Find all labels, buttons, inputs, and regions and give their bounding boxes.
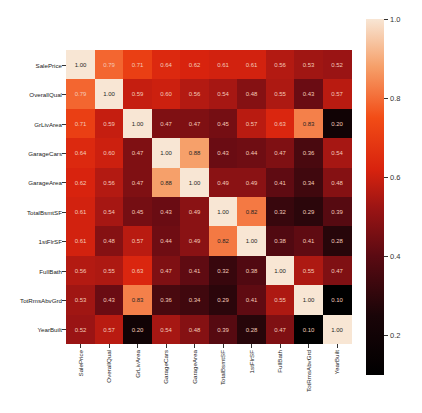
heatmap-cell: 0.45 (123, 197, 152, 227)
heatmap-cell: 0.36 (152, 285, 181, 315)
heatmap-cell: 0.48 (180, 315, 209, 345)
heatmap-cell: 0.62 (66, 168, 95, 198)
x-tick-label: GrLivArea (134, 350, 141, 378)
heatmap-cell: 0.47 (152, 256, 181, 286)
x-tick-label: YearBuilt (333, 350, 340, 375)
heatmap-cell: 0.88 (152, 168, 181, 198)
y-tick-label: 1stFlrSF (39, 238, 62, 245)
heatmap-cell: 0.47 (266, 315, 295, 345)
y-tick-label: TotalBsmtSF (27, 208, 62, 215)
colorbar-tick-label: 0.6 (390, 173, 400, 182)
x-tick-label: GarageArea (191, 350, 198, 384)
y-tick-mark (62, 153, 66, 154)
heatmap-cell: 0.55 (95, 256, 124, 286)
x-tick-mark (223, 344, 224, 348)
heatmap-cell: 0.63 (266, 109, 295, 139)
heatmap-cell: 1.00 (152, 138, 181, 168)
colorbar-tick-mark (384, 177, 388, 178)
heatmap-cell: 0.63 (123, 256, 152, 286)
heatmap-cell: 1.00 (266, 256, 295, 286)
colorbar-tick-label: 0.2 (390, 331, 400, 340)
y-tick-label: GarageArea (28, 179, 62, 186)
heatmap-cell: 1.00 (180, 168, 209, 198)
heatmap-cell: 0.48 (323, 168, 352, 198)
colorbar-tick-label: 0.8 (390, 94, 400, 103)
heatmap-cell: 0.53 (294, 50, 323, 80)
heatmap-cell: 0.48 (237, 79, 266, 109)
heatmap-cell: 0.28 (237, 315, 266, 345)
heatmap-cell: 0.54 (323, 138, 352, 168)
heatmap-cell: 0.59 (95, 109, 124, 139)
heatmap-cell: 0.44 (237, 138, 266, 168)
heatmap-cell: 0.45 (209, 109, 238, 139)
y-tick-mark (62, 271, 66, 272)
heatmap-cell: 0.47 (152, 109, 181, 139)
heatmap-cell: 1.00 (323, 315, 352, 345)
heatmap-cell: 0.10 (294, 315, 323, 345)
heatmap-cell: 0.52 (66, 315, 95, 345)
y-tick-mark (62, 241, 66, 242)
heatmap-cell: 0.29 (209, 285, 238, 315)
y-tick-mark (62, 65, 66, 66)
heatmap-cell: 0.20 (323, 109, 352, 139)
heatmap-cell: 0.41 (266, 168, 295, 198)
y-tick-label: GrLivArea (34, 120, 62, 127)
heatmap-cell: 0.39 (323, 197, 352, 227)
y-tick-label: SalePrice (36, 61, 62, 68)
heatmap-cell: 0.57 (95, 315, 124, 345)
heatmap-cell: 0.20 (123, 315, 152, 345)
heatmap-cell: 0.48 (95, 226, 124, 256)
x-tick-mark (80, 344, 81, 348)
y-tick-mark (62, 300, 66, 301)
heatmap-cell: 0.43 (294, 79, 323, 109)
heatmap-cell: 0.10 (323, 285, 352, 315)
heatmap-cell: 0.54 (152, 315, 181, 345)
heatmap-cell: 0.53 (66, 285, 95, 315)
heatmap-cell: 0.32 (209, 256, 238, 286)
heatmap-cell: 0.43 (152, 197, 181, 227)
heatmap-cell: 0.62 (180, 50, 209, 80)
heatmap-cell: 0.57 (323, 79, 352, 109)
heatmap-cell: 0.60 (95, 138, 124, 168)
colorbar-tick-mark (384, 256, 388, 257)
x-tick-mark (166, 344, 167, 348)
colorbar (366, 19, 384, 375)
heatmap-cell: 0.28 (323, 226, 352, 256)
heatmap-cell: 0.43 (95, 285, 124, 315)
heatmap-cell: 0.64 (66, 138, 95, 168)
heatmap-cell: 0.55 (266, 79, 295, 109)
heatmap-cell: 0.38 (237, 256, 266, 286)
x-tick-mark (337, 344, 338, 348)
x-tick-label: SalePrice (77, 350, 84, 376)
heatmap-cell: 0.57 (123, 226, 152, 256)
heatmap-cell: 1.00 (66, 50, 95, 80)
colorbar-tick-mark (384, 335, 388, 336)
heatmap-cell: 0.47 (266, 138, 295, 168)
heatmap-cell: 0.61 (237, 50, 266, 80)
x-tick-label: OverallQual (105, 350, 112, 383)
heatmap-cell: 0.57 (237, 109, 266, 139)
y-tick-mark (62, 212, 66, 213)
heatmap-cell: 0.82 (209, 226, 238, 256)
heatmap-cell: 0.55 (266, 285, 295, 315)
heatmap-cell: 0.56 (95, 168, 124, 198)
heatmap-cell: 0.32 (266, 197, 295, 227)
colorbar-tick-mark (384, 98, 388, 99)
heatmap-cell: 0.49 (237, 168, 266, 198)
y-tick-mark (62, 124, 66, 125)
heatmap-cell: 0.79 (95, 50, 124, 80)
heatmap-cell: 0.83 (123, 285, 152, 315)
heatmap-cell: 0.47 (180, 109, 209, 139)
heatmap-cell: 1.00 (123, 109, 152, 139)
y-tick-mark (62, 94, 66, 95)
x-tick-mark (308, 344, 309, 348)
heatmap-cell: 0.29 (294, 197, 323, 227)
heatmap-cell: 0.88 (180, 138, 209, 168)
x-tick-label: TotRmsAbvGrd (305, 350, 312, 392)
heatmap-cell: 1.00 (237, 226, 266, 256)
x-tick-label: TotalBsmtSF (219, 350, 226, 385)
heatmap-cell: 0.47 (123, 168, 152, 198)
heatmap-cell: 0.49 (209, 168, 238, 198)
heatmap-cell: 0.34 (180, 285, 209, 315)
heatmap-cell: 0.41 (180, 256, 209, 286)
